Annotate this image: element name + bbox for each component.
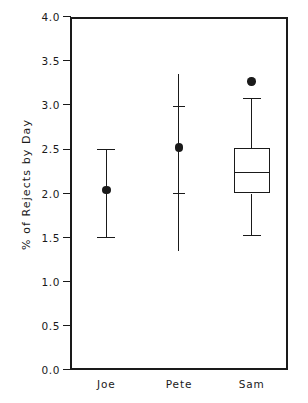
whisker-lower-cap-sam (243, 235, 261, 236)
y-tick-mark (63, 60, 71, 61)
y-tick-mark (63, 149, 71, 150)
range-tick-pete-1 (173, 193, 185, 194)
y-tick-label: 3.0 (20, 99, 60, 111)
error-bar-lower-cap-joe (97, 237, 115, 238)
y-tick-label: 4.0 (20, 11, 60, 23)
range-tick-pete-0 (173, 106, 185, 107)
y-tick-label: 2.0 (20, 188, 60, 200)
whisker-lower-sam (251, 194, 252, 236)
median-line-sam (234, 172, 270, 173)
y-tick-mark (63, 193, 71, 194)
y-tick-label: 0.5 (20, 320, 60, 332)
range-line-pete (178, 74, 179, 251)
y-tick-mark (63, 325, 71, 326)
y-tick-label: 1.5 (20, 232, 60, 244)
y-tick-label: 3.5 (20, 55, 60, 67)
y-tick-label: 2.5 (20, 143, 60, 155)
x-tick-label-joe: Joe (66, 378, 146, 390)
y-tick-label: 1.0 (20, 276, 60, 288)
whisker-upper-cap-sam (243, 98, 261, 99)
y-tick-mark (63, 369, 71, 370)
whisker-upper-sam (251, 99, 252, 148)
y-tick-mark (63, 16, 71, 17)
mean-marker-joe (102, 186, 110, 194)
chart-figure: % of Rejects by Day 0.00.51.01.52.02.53.… (0, 0, 308, 403)
error-bar-upper-cap-joe (97, 149, 115, 150)
x-tick-label-pete: Pete (139, 378, 219, 390)
x-tick-label-sam: Sam (212, 378, 292, 390)
y-tick-mark (63, 281, 71, 282)
y-tick-mark (63, 104, 71, 105)
outlier-marker-sam-0 (247, 77, 255, 85)
y-tick-label: 0.0 (20, 364, 60, 376)
mean-marker-pete (175, 143, 183, 151)
y-tick-mark (63, 237, 71, 238)
